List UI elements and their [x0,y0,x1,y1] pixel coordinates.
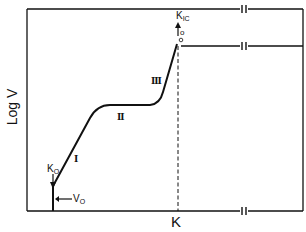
kic-label: KIC [176,11,190,21]
x-axis-label: K [171,214,181,229]
region-label-ii: II [117,111,124,122]
k0-label: KO [47,164,59,174]
kic-main: K [176,10,183,21]
v0-arrow-icon [55,196,72,202]
kic-sub: IC [183,15,190,22]
y-axis-label: Log V [5,87,19,127]
k0-sub: O [54,168,59,175]
v0-sub: O [80,198,85,205]
v0-label: VO [73,194,85,204]
kic-marker-icon [179,38,183,42]
plot-frame [27,9,303,211]
axis-break-icons [242,5,246,215]
growth-curve [53,44,177,211]
v0-main: V [73,193,80,204]
region-label-i: I [74,153,77,164]
region-label-iii: III [151,75,161,86]
diagram-canvas [0,0,306,232]
kic-marker-label: o [180,29,184,37]
k0-main: K [47,163,54,174]
